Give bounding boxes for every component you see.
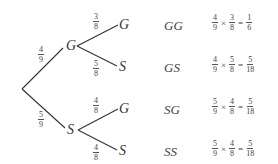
outcome-label-SS: SS	[164, 145, 177, 158]
node-G: G	[66, 39, 76, 53]
outcome-label-SG: SG	[164, 103, 180, 116]
equation-GG: 49 × 38 = 16	[212, 14, 252, 32]
prob-S-G: 4 8	[93, 97, 99, 115]
leaf-SS: S	[119, 144, 126, 158]
prob-root-G: 4 9	[38, 46, 44, 64]
prob-G-S: 5 8	[93, 60, 99, 78]
equation-SS: 59 × 48 = 518	[212, 140, 254, 158]
equation-SG: 59 × 48 = 518	[212, 98, 254, 116]
prob-S-S: 4 8	[93, 144, 99, 162]
prob-G-G: 3 8	[93, 13, 99, 31]
outcome-label-GS: GS	[164, 61, 180, 74]
leaf-GS: S	[119, 60, 126, 74]
equation-GS: 49 × 58 = 518	[212, 56, 254, 74]
leaf-SG: G	[119, 102, 129, 116]
leaf-GG: G	[119, 18, 129, 32]
outcome-label-GG: GG	[164, 19, 183, 32]
prob-root-S: 5 9	[38, 111, 44, 129]
node-S: S	[67, 123, 74, 137]
